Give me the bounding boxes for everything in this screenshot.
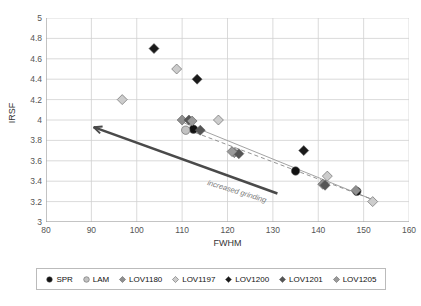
diamond-marker-icon bbox=[171, 275, 180, 284]
diamond-marker-icon bbox=[278, 275, 287, 284]
data-point-lam bbox=[182, 126, 190, 134]
legend-label: LOV1197 bbox=[182, 275, 215, 284]
legend-item-spr[interactable]: SPR bbox=[45, 275, 72, 284]
y-tick-label: 5 bbox=[2, 14, 42, 23]
chart-figure: 33.23.43.63.844.24.44.64.85 increased gr… bbox=[0, 0, 421, 306]
diamond-marker-icon bbox=[224, 275, 233, 284]
legend-label: LOV1205 bbox=[343, 275, 377, 284]
x-tick-label: 90 bbox=[71, 226, 111, 235]
circle-marker-icon bbox=[45, 275, 54, 284]
diamond-marker-icon bbox=[118, 275, 127, 284]
legend-label: LAM bbox=[93, 275, 109, 284]
plot-area: increased grinding bbox=[46, 18, 409, 222]
x-tick-label: 160 bbox=[389, 226, 421, 235]
y-tick-label: 3.4 bbox=[2, 177, 42, 186]
x-tick-label: 150 bbox=[344, 226, 384, 235]
x-axis-tick-labels: 8090100110120130140150160 bbox=[46, 226, 409, 238]
legend-item-lov1180[interactable]: LOV1180 bbox=[118, 275, 162, 284]
legend-label: LOV1180 bbox=[129, 275, 162, 284]
legend-label: LOV1200 bbox=[235, 275, 269, 284]
y-tick-label: 3.2 bbox=[2, 197, 42, 206]
legend-item-lov1201[interactable]: LOV1201 bbox=[278, 275, 323, 284]
y-tick-label: 4.6 bbox=[2, 55, 42, 64]
legend-item-lov1200[interactable]: LOV1200 bbox=[224, 275, 269, 284]
data-point-spr bbox=[291, 167, 299, 175]
y-tick-label: 3 bbox=[2, 218, 42, 227]
x-tick-label: 120 bbox=[208, 226, 248, 235]
circle-marker-icon bbox=[82, 275, 91, 284]
x-axis-title: FWHM bbox=[46, 238, 409, 248]
x-tick-label: 100 bbox=[117, 226, 157, 235]
legend-item-lam[interactable]: LAM bbox=[82, 275, 109, 284]
x-tick-label: 140 bbox=[298, 226, 338, 235]
chart-legend: SPRLAMLOV1180LOV1197LOV1200LOV1201LOV120… bbox=[36, 268, 386, 290]
legend-label: LOV1201 bbox=[289, 275, 323, 284]
series-lam bbox=[182, 126, 190, 134]
legend-item-lov1197[interactable]: LOV1197 bbox=[171, 275, 215, 284]
legend-label: SPR bbox=[56, 275, 72, 284]
arrow-head-upper bbox=[94, 126, 103, 127]
diamond-marker-icon bbox=[332, 275, 341, 284]
y-tick-label: 3.6 bbox=[2, 157, 42, 166]
y-tick-label: 4.8 bbox=[2, 34, 42, 43]
y-axis-title: IRSF bbox=[7, 83, 17, 143]
x-tick-label: 130 bbox=[253, 226, 293, 235]
x-tick-label: 110 bbox=[162, 226, 202, 235]
x-tick-label: 80 bbox=[26, 226, 66, 235]
legend-item-lov1205[interactable]: LOV1205 bbox=[332, 275, 377, 284]
